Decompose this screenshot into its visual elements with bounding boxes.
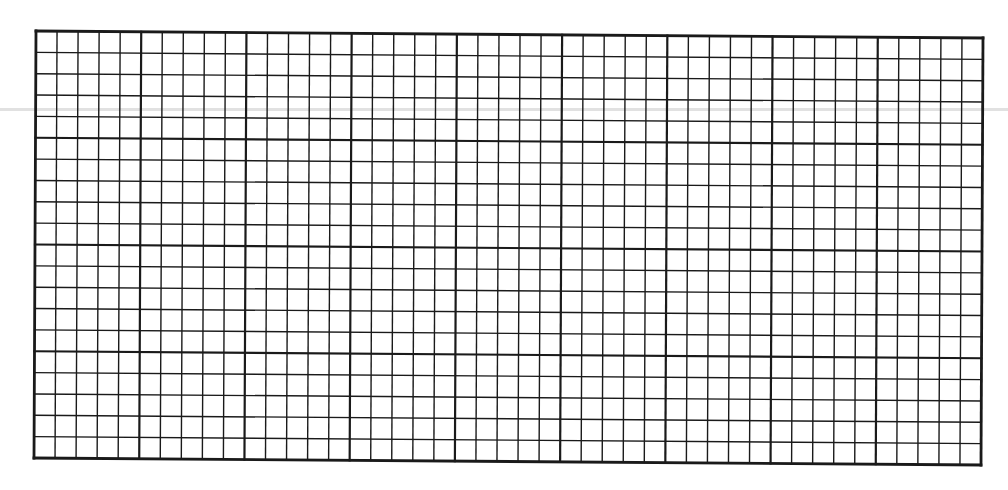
minor-grid-line-horizontal [36,52,983,59]
minor-grid-line-horizontal [36,95,983,102]
minor-grid-line-horizontal [34,394,981,401]
minor-grid-line-horizontal [35,180,982,187]
minor-grid-line-horizontal [34,437,981,444]
minor-grid-line-horizontal [35,287,982,294]
minor-grid-line-horizontal [36,116,983,123]
minor-grid-line-horizontal [36,74,983,81]
minor-grid-line-horizontal [35,223,982,230]
major-grid-line-horizontal [36,138,983,145]
minor-grid-line-horizontal [35,159,982,166]
major-grid-line-horizontal [35,245,982,252]
minor-grid-line-horizontal [34,415,981,422]
minor-grid-line-horizontal [35,202,982,209]
graph-grid [0,0,1008,490]
graph-paper-sheet [0,0,1008,490]
grid-border [34,458,981,465]
grid-border [36,31,983,38]
major-grid-line-horizontal [35,351,982,358]
minor-grid-line-horizontal [35,266,982,273]
minor-grid-line-horizontal [34,373,981,380]
minor-grid-line-horizontal [35,309,982,316]
minor-grid-line-horizontal [35,330,982,337]
